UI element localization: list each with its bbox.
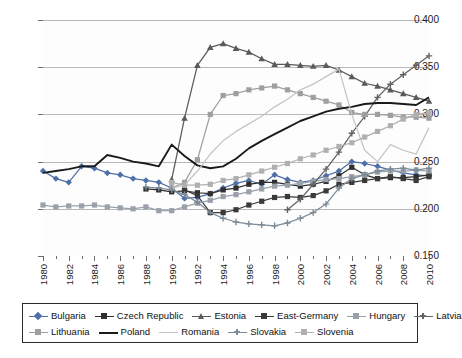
legend-marker-glyph bbox=[101, 313, 107, 319]
legend-marker-icon bbox=[255, 311, 274, 321]
legend-row-2: LithuaniaPolandRomaniaSlovakiaSlovenia bbox=[29, 324, 411, 340]
x-tick-mark bbox=[185, 256, 186, 259]
x-tick-label: 1980 bbox=[38, 264, 49, 285]
x-tick-mark bbox=[300, 256, 301, 261]
x-tick-mark bbox=[82, 256, 83, 259]
legend-marker-icon bbox=[295, 327, 314, 337]
x-tick-mark bbox=[429, 256, 430, 261]
legend-label: Lithuania bbox=[51, 327, 90, 337]
x-tick-mark bbox=[390, 256, 391, 259]
legend-marker-glyph bbox=[420, 313, 426, 319]
legend-item-slovakia[interactable]: Slovakia bbox=[228, 327, 286, 337]
x-tick-mark bbox=[378, 256, 379, 261]
y-tick-mark bbox=[38, 67, 43, 68]
legend-label: East-Germany bbox=[277, 311, 338, 321]
legend-marker-icon bbox=[347, 311, 366, 321]
x-tick-label: 1996 bbox=[244, 264, 255, 285]
gridline-y bbox=[43, 209, 429, 210]
x-tick-mark bbox=[146, 256, 147, 261]
legend-label: Czech Republic bbox=[117, 311, 184, 321]
x-tick-mark bbox=[69, 256, 70, 261]
x-tick-label: 1992 bbox=[192, 264, 203, 285]
y-tick-label: 0.150 bbox=[399, 250, 439, 261]
x-tick-label: 2008 bbox=[398, 264, 409, 285]
legend-item-estonia[interactable]: Estonia bbox=[192, 311, 246, 321]
x-tick-mark bbox=[120, 256, 121, 261]
legend-marker-icon bbox=[99, 327, 118, 337]
legend-label: Estonia bbox=[214, 311, 246, 321]
x-tick-label: 1998 bbox=[270, 264, 281, 285]
x-tick-mark bbox=[326, 256, 327, 261]
x-tick-mark bbox=[56, 256, 57, 259]
legend-marker-icon bbox=[95, 311, 114, 321]
x-tick-mark bbox=[249, 256, 250, 261]
legend-item-czech-republic[interactable]: Czech Republic bbox=[95, 311, 184, 321]
x-tick-mark bbox=[287, 256, 288, 259]
x-tick-mark bbox=[275, 256, 276, 261]
legend-item-romania[interactable]: Romania bbox=[159, 327, 219, 337]
x-tick-label: 2006 bbox=[373, 264, 384, 285]
x-tick-label: 1982 bbox=[64, 264, 75, 285]
plot-area bbox=[43, 20, 429, 256]
x-tick-label: 1984 bbox=[89, 264, 100, 285]
y-tick-mark bbox=[38, 162, 43, 163]
x-tick-label: 1986 bbox=[115, 264, 126, 285]
legend-item-poland[interactable]: Poland bbox=[99, 327, 151, 337]
legend-marker-icon bbox=[228, 327, 247, 337]
x-tick-mark bbox=[403, 256, 404, 261]
x-tick-label: 1994 bbox=[218, 264, 229, 285]
x-tick-mark bbox=[223, 256, 224, 261]
x-tick-mark bbox=[159, 256, 160, 259]
gridline-y bbox=[43, 162, 429, 163]
legend-row-1: BulgariaCzech RepublicEstoniaEast-German… bbox=[29, 308, 411, 324]
legend-label: Poland bbox=[121, 327, 151, 337]
legend-label: Bulgaria bbox=[51, 311, 86, 321]
legend-label: Hungary bbox=[369, 311, 405, 321]
gridline-y bbox=[43, 67, 429, 68]
x-tick-mark bbox=[94, 256, 95, 261]
legend-item-hungary[interactable]: Hungary bbox=[347, 311, 405, 321]
legend-marker-icon bbox=[29, 327, 48, 337]
legend-label: Slovakia bbox=[250, 327, 286, 337]
legend-label: Romania bbox=[181, 327, 219, 337]
legend-marker-glyph bbox=[198, 313, 204, 319]
legend-item-bulgaria[interactable]: Bulgaria bbox=[29, 311, 86, 321]
legend-marker-icon bbox=[414, 311, 433, 321]
x-tick-mark bbox=[339, 256, 340, 259]
x-tick-mark bbox=[210, 256, 211, 259]
legend-item-latvia[interactable]: Latvia bbox=[414, 311, 461, 321]
gridline-y bbox=[43, 114, 429, 115]
x-tick-label: 2000 bbox=[295, 264, 306, 285]
legend-marker-icon bbox=[192, 311, 211, 321]
x-tick-mark bbox=[133, 256, 134, 259]
y-tick-label: 0.250 bbox=[399, 156, 439, 167]
legend-marker-icon bbox=[29, 311, 48, 321]
x-tick-mark bbox=[352, 256, 353, 261]
x-tick-mark bbox=[43, 256, 44, 261]
legend-item-slovenia[interactable]: Slovenia bbox=[295, 327, 353, 337]
gridline-y bbox=[43, 20, 429, 21]
legend-marker-icon bbox=[159, 327, 178, 337]
legend-label: Latvia bbox=[436, 311, 461, 321]
chart-legend: BulgariaCzech RepublicEstoniaEast-German… bbox=[22, 303, 418, 343]
x-tick-mark bbox=[365, 256, 366, 259]
y-tick-label: 0.350 bbox=[399, 61, 439, 72]
legend-marker-glyph bbox=[34, 312, 42, 320]
legend-marker-glyph bbox=[35, 329, 41, 335]
legend-label: Slovenia bbox=[317, 327, 353, 337]
plot-background bbox=[43, 20, 429, 256]
y-tick-label: 0.200 bbox=[399, 203, 439, 214]
y-tick-label: 0.400 bbox=[399, 14, 439, 25]
x-tick-mark bbox=[236, 256, 237, 259]
x-tick-mark bbox=[197, 256, 198, 261]
x-tick-mark bbox=[416, 256, 417, 259]
legend-item-lithuania[interactable]: Lithuania bbox=[29, 327, 90, 337]
y-tick-label: 0.300 bbox=[399, 108, 439, 119]
x-tick-label: 1990 bbox=[167, 264, 178, 285]
x-tick-mark bbox=[172, 256, 173, 261]
y-tick-mark bbox=[38, 209, 43, 210]
legend-marker-glyph bbox=[301, 329, 307, 335]
x-tick-mark bbox=[262, 256, 263, 259]
legend-item-east-germany[interactable]: East-Germany bbox=[255, 311, 338, 321]
